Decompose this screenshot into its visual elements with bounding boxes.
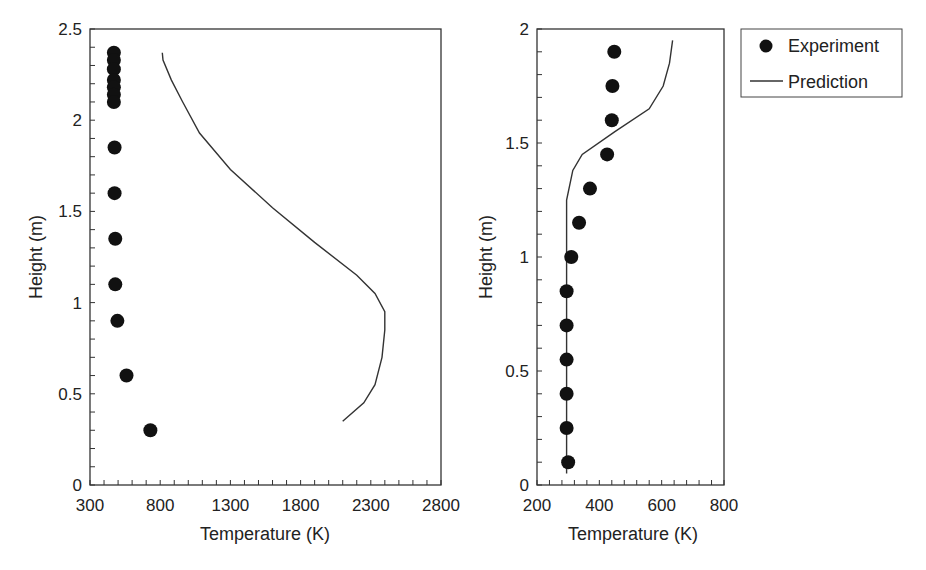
x-tick-label: 300 [76, 496, 104, 515]
legend-prediction-label: Prediction [788, 72, 868, 92]
right-experiment-points [560, 45, 622, 469]
left-chart: 00.511.522.5 3008001300180023002800 Temp… [26, 20, 460, 544]
right-y-axis-label: Height (m) [476, 215, 496, 299]
experiment-point [108, 186, 122, 200]
y-tick-label: 2 [520, 20, 529, 39]
experiment-point [600, 147, 614, 161]
left-plot-frame [90, 29, 441, 485]
y-tick-label: 0 [520, 476, 529, 495]
experiment-point [560, 353, 574, 367]
experiment-point [120, 369, 134, 383]
figure: 00.511.522.5 3008001300180023002800 Temp… [0, 0, 926, 570]
right-prediction-line [567, 40, 673, 473]
experiment-point [560, 318, 574, 332]
left-y-tick-labels: 00.511.522.5 [58, 20, 82, 495]
x-tick-label: 400 [585, 496, 613, 515]
right-x-ticks [537, 480, 724, 485]
x-tick-label: 800 [710, 496, 738, 515]
experiment-point [108, 141, 122, 155]
left-x-tick-labels: 3008001300180023002800 [76, 496, 460, 515]
right-y-ticks [537, 29, 542, 485]
x-tick-label: 2800 [422, 496, 460, 515]
experiment-point [564, 250, 578, 264]
experiment-point [583, 182, 597, 196]
experiment-point [108, 232, 122, 246]
experiment-point [572, 216, 586, 230]
x-tick-label: 1300 [211, 496, 249, 515]
y-tick-label: 1 [520, 248, 529, 267]
right-y-tick-labels: 00.511.52 [505, 20, 529, 495]
experiment-point [560, 284, 574, 298]
legend-experiment-marker [760, 40, 773, 53]
left-y-ticks [90, 29, 95, 485]
left-prediction-line [162, 53, 384, 422]
y-tick-label: 0 [73, 476, 82, 495]
x-tick-label: 2300 [352, 496, 390, 515]
x-tick-label: 1800 [282, 496, 320, 515]
y-tick-label: 0.5 [505, 362, 529, 381]
y-tick-label: 1.5 [58, 202, 82, 221]
y-tick-label: 2.5 [58, 20, 82, 39]
experiment-point [110, 314, 124, 328]
y-tick-label: 1 [73, 294, 82, 313]
experiment-point [143, 423, 157, 437]
left-y-axis-label: Height (m) [26, 215, 46, 299]
x-tick-label: 600 [647, 496, 675, 515]
experiment-point [560, 421, 574, 435]
right-x-axis-label: Temperature (K) [568, 524, 698, 544]
experiment-point [560, 387, 574, 401]
y-tick-label: 0.5 [58, 385, 82, 404]
x-tick-label: 200 [523, 496, 551, 515]
left-experiment-points [107, 46, 158, 438]
experiment-point [607, 45, 621, 59]
experiment-point [605, 79, 619, 93]
legend-experiment-label: Experiment [788, 36, 879, 56]
left-x-ticks [90, 480, 441, 485]
experiment-point [605, 113, 619, 127]
experiment-point [108, 277, 122, 291]
legend: Experiment Prediction [741, 29, 902, 97]
right-chart: 00.511.52 200400600800 Temperature (K) H… [476, 20, 738, 544]
experiment-point [561, 455, 575, 469]
right-x-tick-labels: 200400600800 [523, 496, 738, 515]
y-tick-label: 2 [73, 111, 82, 130]
y-tick-label: 1.5 [505, 134, 529, 153]
experiment-point [107, 95, 121, 109]
x-tick-label: 800 [146, 496, 174, 515]
left-x-axis-label: Temperature (K) [200, 524, 330, 544]
